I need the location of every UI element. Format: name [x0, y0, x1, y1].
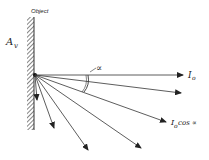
intensity-normal-label: I o [187, 70, 196, 81]
rays [35, 75, 183, 150]
object-label: Object [31, 8, 49, 14]
ray-5 [35, 75, 88, 150]
svg-text:cos ∝: cos ∝ [178, 119, 197, 127]
object-wall [27, 17, 34, 130]
intensity-angle-label: I o cos ∝ [170, 118, 197, 129]
ray-6 [35, 75, 54, 128]
svg-text:A: A [5, 36, 13, 47]
lambert-diagram: Object A v ∝ I o [0, 0, 209, 160]
area-label: A v [5, 36, 18, 50]
angle-arc: ∝ [82, 63, 102, 92]
diagram-canvas: Object A v ∝ I o [0, 0, 209, 160]
angle-label: ∝ [96, 63, 102, 73]
svg-text:o: o [192, 74, 196, 81]
svg-text:v: v [14, 42, 18, 50]
ray-angle [35, 75, 166, 122]
